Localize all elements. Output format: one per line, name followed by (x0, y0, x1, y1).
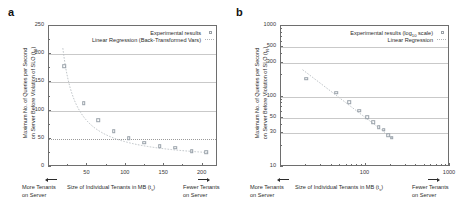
data-point (334, 91, 338, 95)
y-title-line2: on Server Before Violation of SLO (t (30, 52, 36, 140)
data-point (390, 136, 394, 140)
ytick-label-b-10: 10 (250, 163, 276, 169)
ytick-minor-b-80 (280, 102, 282, 103)
xtick-minor-b-30 (320, 164, 321, 166)
ytick-b-300 (280, 62, 283, 63)
data-point (372, 121, 376, 125)
figure-container: a 050100150200250 50100150200 Maximum No… (0, 0, 464, 206)
xtick-minor-a-25 (67, 164, 68, 166)
data-point (365, 115, 369, 119)
dotted-line-icon (205, 39, 214, 40)
right-note-line1: Fewer Tenants (183, 184, 220, 190)
panel-b-plot-area (280, 25, 449, 166)
xtick-label-b-100: 100 (351, 170, 379, 176)
panel-b-label: b (236, 6, 243, 18)
xtick-a-150 (163, 163, 164, 166)
left-note-line1-b: More Tenants (250, 184, 284, 190)
ytick-b-1000 (280, 25, 283, 26)
ytick-minor-b-800 (280, 32, 282, 33)
ytick-b-30 (280, 132, 283, 133)
left-note-line2: on Server (22, 192, 46, 198)
panel-b: b 1030501003005001000 1001000 Maximum No… (232, 0, 464, 206)
ytick-label-a-0: 0 (22, 163, 44, 169)
more-tenants-arrow-a (47, 179, 57, 180)
gridline-b-30 (281, 133, 448, 134)
xtick-minor-b-60 (346, 164, 347, 166)
ytick-minor-b-700 (280, 36, 282, 37)
data-point (173, 146, 177, 150)
xtick-label-b-1000: 1000 (435, 170, 463, 176)
panel-b-x-axis-title: Size of Individual Tenants in MB (ts) (295, 184, 383, 193)
ytick-minor-b-70 (280, 106, 282, 107)
open-square-icon (209, 31, 213, 35)
data-point (112, 130, 116, 134)
xtick-a-100 (125, 163, 126, 166)
panel-a-plot-area (48, 25, 217, 166)
xtick-minor-b-700 (436, 164, 437, 166)
ytick-a-50 (48, 138, 51, 139)
panel-a-label: a (8, 6, 14, 18)
data-point (63, 64, 67, 68)
xtick-minor-b-20 (305, 164, 306, 166)
gridline-b-100 (281, 97, 448, 98)
ytick-minor-a-175 (48, 67, 50, 68)
ytick-minor-a-125 (48, 96, 50, 97)
panel-b-y-axis-title: Maximum No. of Queries per Second on Ser… (254, 28, 271, 158)
x-title-main-b: Size of Individual Tenants in MB (t (295, 184, 379, 190)
ytick-minor-a-25 (48, 152, 50, 153)
data-point (127, 136, 131, 140)
legend-item-regression-b: Linear Regression (320, 36, 446, 43)
ytick-minor-b-60 (280, 111, 282, 112)
x-title-main: Size of Individual Tenants in MB (t (67, 184, 151, 190)
ytick-minor-b-400 (280, 53, 282, 54)
y-title-sub: R (33, 49, 38, 52)
ytick-b-500 (280, 46, 283, 47)
xtick-minor-a-125 (144, 164, 145, 166)
open-square-icon-b (441, 31, 445, 35)
gridline-b-500 (281, 47, 448, 48)
xtick-b-1000 (449, 163, 450, 166)
data-point (377, 125, 381, 129)
panel-b-right-note: Fewer Tenants on Server (412, 184, 449, 199)
xtick-b-100 (365, 163, 366, 166)
ytick-minor-b-90 (280, 99, 282, 100)
xtick-minor-b-200 (390, 164, 391, 166)
ytick-minor-a-225 (48, 39, 50, 40)
regression-curve-a (49, 26, 218, 167)
y-title-end: ) (30, 47, 36, 49)
ytick-b-100 (280, 96, 283, 97)
ytick-minor-b-200 (280, 74, 282, 75)
ytick-label-a-250: 250 (22, 22, 44, 28)
ytick-minor-b-40 (280, 124, 282, 125)
right-note-line2: on Server (183, 192, 207, 198)
data-point (357, 109, 361, 113)
xtick-label-a-150: 150 (151, 170, 175, 176)
dotted-line-icon-b (437, 39, 446, 40)
y-title-end-b: ) (262, 47, 268, 49)
xtick-minor-b-80 (356, 164, 357, 166)
data-point (82, 101, 86, 105)
xtick-minor-b-600 (430, 164, 431, 166)
xtick-label-a-50: 50 (74, 170, 98, 176)
ytick-a-200 (48, 53, 51, 54)
ytick-minor-a-75 (48, 124, 50, 125)
xtick-a-50 (86, 163, 87, 166)
y-title-line1-b: Maximum No. of Queries per Second (254, 48, 260, 138)
panel-a-left-note: More Tenants on Server (22, 184, 56, 199)
fewer-tenants-arrow-b (428, 179, 438, 180)
left-note-line1: More Tenants (22, 184, 56, 190)
legend-label-regression-b: Linear Regression (388, 36, 433, 45)
gridline-b-300 (281, 63, 448, 64)
xtick-minor-b-900 (445, 164, 446, 166)
legend-label-regression: Linear Regression (Back-Transformed Vars… (92, 36, 201, 45)
panel-b-left-note: More Tenants on Server (250, 184, 284, 199)
data-point (142, 141, 146, 145)
y-title-sub-b: R (265, 49, 270, 52)
data-point (347, 100, 351, 104)
ytick-a-100 (48, 110, 51, 111)
x-title-end: ) (153, 184, 155, 190)
panel-a-legend: Experimental results Linear Regression (… (90, 29, 214, 43)
xtick-minor-b-500 (424, 164, 425, 166)
data-point (205, 151, 209, 155)
panel-a: a 050100150200250 50100150200 Maximum No… (0, 0, 232, 206)
